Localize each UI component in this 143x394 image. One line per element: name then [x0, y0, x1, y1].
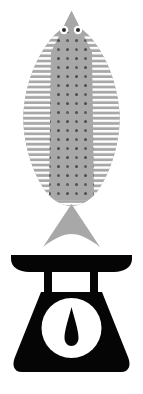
scale-leg-right — [90, 271, 98, 294]
scale-pan — [11, 255, 132, 272]
fish-on-scale-illustration — [0, 0, 143, 394]
illustration-canvas — [0, 0, 143, 394]
fish-eye-right — [74, 26, 82, 34]
scale-leg-left — [44, 271, 52, 294]
fish-eye-left — [60, 26, 68, 34]
